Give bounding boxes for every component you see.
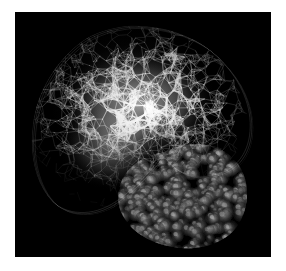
molecule-svg [15, 12, 271, 257]
molecular-render-viewport[interactable] [15, 12, 271, 257]
molecule-scene [15, 12, 271, 257]
screenshot-root [0, 0, 286, 271]
